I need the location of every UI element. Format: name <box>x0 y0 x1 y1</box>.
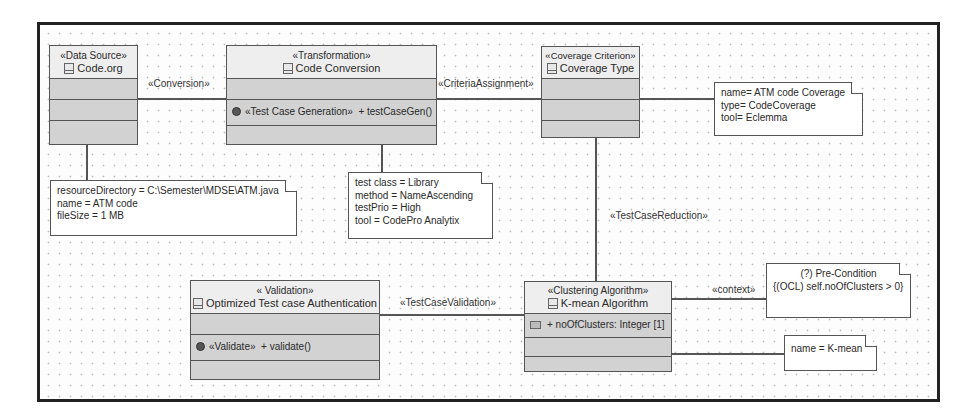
stereotype-label: « Validation» <box>191 284 379 297</box>
attribute-icon <box>530 321 541 329</box>
attribute-signature[interactable]: + noOfClusters: Integer [1] <box>547 319 665 330</box>
extra-compartment[interactable] <box>191 361 379 378</box>
class-name: Code Conversion <box>283 62 381 75</box>
class-icon <box>548 298 558 309</box>
note-coverage[interactable]: name= ATM code Coverage type= CodeCovera… <box>714 82 863 136</box>
class-validation[interactable]: « Validation» Optimized Test case Authen… <box>190 280 380 380</box>
data-source-note-connector[interactable] <box>86 145 88 180</box>
coverage-note-connector[interactable] <box>640 98 714 100</box>
note-kmean[interactable]: name = K-mean <box>784 335 877 371</box>
conversion-label: «Conversion» <box>148 78 210 90</box>
attribute-compartment[interactable] <box>191 314 379 335</box>
test-case-reduction-label: «TestCaseReduction» <box>610 210 708 222</box>
class-name: K-mean Algorithm <box>548 297 648 310</box>
class-header: «Clustering Algorithm» K-mean Algorithm <box>525 282 671 314</box>
class-header: «Transformation» Code Conversion <box>227 46 436 79</box>
class-icon <box>283 63 293 74</box>
class-name: Optimized Test case Authentication <box>193 297 377 310</box>
class-clustering-algorithm[interactable]: «Clustering Algorithm» K-mean Algorithm … <box>524 281 672 372</box>
attribute-compartment[interactable]: + noOfClusters: Integer [1] <box>525 314 671 338</box>
operation-compartment[interactable]: «Test Case Generation» + testCaseGen() <box>227 100 436 126</box>
operation-compartment[interactable] <box>542 100 639 121</box>
extra-compartment[interactable] <box>525 357 671 371</box>
kmean-note-connector[interactable] <box>672 353 785 355</box>
class-icon <box>547 63 557 74</box>
test-case-validation-association-line[interactable] <box>380 314 524 316</box>
conversion-association-line[interactable] <box>138 98 226 100</box>
operation-compartment[interactable] <box>50 100 137 121</box>
stereotype-label: «Coverage Criterion» <box>542 49 639 62</box>
class-header: «Coverage Criterion» Coverage Type <box>542 47 639 79</box>
operation-stereotype: «Validate» <box>209 341 256 352</box>
note-transformation[interactable]: test class = Library method = NameAscend… <box>348 172 493 239</box>
criteria-assignment-association-line[interactable] <box>437 98 541 100</box>
operation-icon <box>232 107 241 116</box>
stereotype-label: «Data Source» <box>50 49 137 62</box>
extra-compartment[interactable] <box>542 121 639 136</box>
operation-icon <box>196 342 205 351</box>
class-name: Code.org <box>64 62 122 75</box>
operation-signature[interactable]: + testCaseGen() <box>358 106 432 117</box>
class-header: « Validation» Optimized Test case Authen… <box>191 281 379 314</box>
class-data-source[interactable]: «Data Source» Code.org <box>49 45 138 145</box>
class-icon <box>193 298 203 309</box>
attribute-compartment[interactable] <box>227 79 436 100</box>
class-header: «Data Source» Code.org <box>50 46 137 79</box>
note-data-source[interactable]: resourceDirectory = C:\Semester\MDSE\ATM… <box>50 180 297 236</box>
stereotype-label: «Transformation» <box>227 49 436 62</box>
note-precondition[interactable]: (?) Pre-Condition {(OCL) self.noOfCluste… <box>766 263 911 318</box>
stereotype-label: «Clustering Algorithm» <box>525 284 671 297</box>
context-connector[interactable] <box>672 298 771 300</box>
class-icon <box>64 63 74 74</box>
operation-compartment[interactable] <box>525 338 671 357</box>
class-name: Coverage Type <box>547 62 634 75</box>
context-label: «context» <box>712 284 755 296</box>
attribute-compartment[interactable] <box>542 79 639 100</box>
transformation-note-connector[interactable] <box>381 145 383 173</box>
class-transformation[interactable]: «Transformation» Code Conversion «Test C… <box>226 45 437 145</box>
operation-stereotype: «Test Case Generation» <box>245 106 353 117</box>
extra-compartment[interactable] <box>227 126 436 143</box>
attribute-compartment[interactable] <box>50 79 137 100</box>
test-case-reduction-association-line[interactable] <box>595 138 597 281</box>
test-case-validation-label: «TestCaseValidation» <box>400 297 496 309</box>
operation-signature[interactable]: + validate() <box>261 341 311 352</box>
criteria-assignment-label: «CriteriaAssignment» <box>438 78 534 90</box>
operation-compartment[interactable]: «Validate» + validate() <box>191 335 379 361</box>
class-coverage-type[interactable]: «Coverage Criterion» Coverage Type <box>541 46 640 138</box>
extra-compartment[interactable] <box>50 121 137 143</box>
